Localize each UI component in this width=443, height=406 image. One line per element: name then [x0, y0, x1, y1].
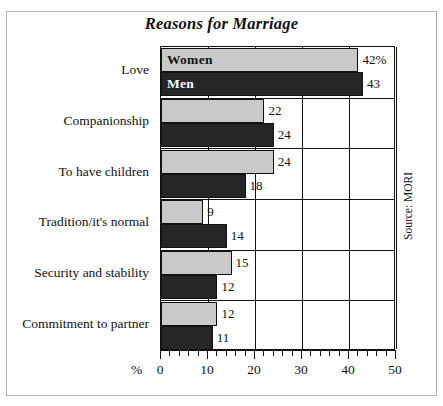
x-tick-minor	[169, 350, 170, 356]
x-tick-minor	[367, 350, 368, 356]
x-tick-minor	[188, 350, 189, 356]
bar-women	[161, 150, 274, 174]
gridline-vertical	[396, 47, 397, 349]
bar-value-women: 22	[268, 103, 281, 119]
bar-value-men: 18	[250, 178, 263, 194]
bar-value-men: 43	[367, 76, 380, 92]
x-tick-minor	[273, 350, 274, 356]
legend-label-women: Women	[167, 52, 213, 68]
bar-value-women: 42%	[362, 52, 386, 68]
x-tick-label: 40	[333, 362, 363, 378]
x-tick-minor	[329, 350, 330, 356]
bar-men	[161, 123, 274, 147]
category-label: Commitment to partner	[22, 316, 149, 332]
x-tick-major	[160, 350, 161, 359]
x-tick-major	[301, 350, 302, 359]
bar-value-women: 24	[278, 154, 291, 170]
category-label: Love	[121, 62, 149, 78]
x-tick-minor	[226, 350, 227, 356]
x-tick-label: 0	[145, 362, 175, 378]
x-tick-minor	[198, 350, 199, 356]
bar-women	[161, 302, 217, 326]
bar-value-women: 12	[221, 306, 234, 322]
category-axis-labels: LoveCompanionshipTo have childrenTraditi…	[0, 46, 155, 350]
category-label: Companionship	[63, 113, 149, 129]
bar-value-men: 14	[231, 228, 244, 244]
x-axis-unit-label: %	[131, 362, 142, 378]
bar-men	[161, 224, 227, 248]
category-label: Tradition/it's normal	[39, 214, 149, 230]
x-tick-minor	[179, 350, 180, 356]
bar-women	[161, 251, 232, 275]
chart-title: Reasons for Marriage	[0, 14, 443, 34]
x-tick-label: 30	[286, 362, 316, 378]
bar-men	[161, 326, 213, 350]
category-label: Security and stability	[34, 265, 149, 281]
x-tick-minor	[282, 350, 283, 356]
category-label: To have children	[58, 164, 149, 180]
x-tick-minor	[245, 350, 246, 356]
bar-value-men: 11	[217, 330, 230, 346]
bar-value-men: 24	[278, 127, 291, 143]
x-tick-minor	[386, 350, 387, 356]
x-tick-minor	[357, 350, 358, 356]
x-tick-major	[254, 350, 255, 359]
source-note: Source: MORI	[402, 172, 414, 240]
x-tick-minor	[376, 350, 377, 356]
x-tick-major	[348, 350, 349, 359]
bar-men	[161, 174, 246, 198]
x-tick-minor	[263, 350, 264, 356]
x-tick-major	[207, 350, 208, 359]
x-tick-minor	[292, 350, 293, 356]
x-tick-minor	[310, 350, 311, 356]
x-axis-line	[160, 350, 396, 351]
figure-canvas: Reasons for Marriage LoveCompanionshipTo…	[0, 0, 443, 406]
bar-value-women: 15	[236, 255, 249, 271]
x-tick-minor	[216, 350, 217, 356]
plot-area: WomenMen42%432224241891415121211	[160, 46, 395, 350]
x-tick-label: 10	[192, 362, 222, 378]
bar-value-women: 9	[207, 204, 214, 220]
x-tick-minor	[320, 350, 321, 356]
bar-women	[161, 99, 264, 123]
bar-women	[161, 200, 203, 224]
x-tick-minor	[235, 350, 236, 356]
x-tick-label: 20	[239, 362, 269, 378]
legend-label-men: Men	[167, 76, 194, 92]
x-tick-minor	[339, 350, 340, 356]
bar-value-men: 12	[221, 279, 234, 295]
x-tick-major	[395, 350, 396, 359]
bar-men	[161, 275, 217, 299]
x-tick-label: 50	[380, 362, 410, 378]
